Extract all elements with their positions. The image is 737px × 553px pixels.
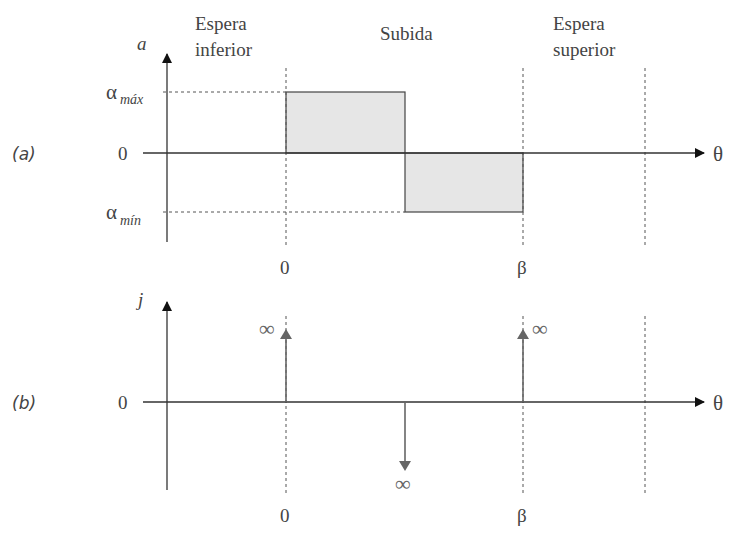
panel-a-tag: (a) (12, 144, 36, 164)
infinity-label-zero: ∞ (259, 316, 275, 341)
a-axis-label: a (137, 33, 147, 54)
panel-b-tag: (b) (12, 393, 36, 413)
phase-label-lower-dwell-line1: Espera (195, 13, 247, 34)
amax-subscript: máx (120, 92, 144, 107)
amax-label: α máx (106, 80, 144, 107)
cam-motion-diagram: Espera inferior Subida Espera superior (… (0, 0, 737, 553)
x-tick-beta-a: β (517, 257, 527, 278)
j-axis-label: j (135, 289, 143, 310)
negative-acceleration-block (405, 153, 523, 212)
amin-symbol: α (106, 200, 117, 224)
x-tick-zero-b: 0 (280, 505, 290, 526)
panel-a-acceleration: (a) a θ α máx 0 α mín 0 β (12, 33, 723, 278)
positive-acceleration-block (286, 92, 405, 153)
phase-label-upper-dwell-line1: Espera (553, 13, 605, 34)
infinity-label-beta: ∞ (532, 316, 548, 341)
x-tick-beta-b: β (517, 505, 527, 526)
phase-label-rise: Subida (380, 23, 433, 44)
phase-label-upper-dwell-line2: superior (553, 39, 616, 60)
panel-b-jerk: (b) ∞ ∞ ∞ j θ 0 0 β (12, 289, 723, 526)
amin-subscript: mín (120, 213, 141, 228)
phase-label-lower-dwell-line2: inferior (195, 39, 253, 60)
zero-label-b: 0 (118, 392, 128, 413)
x-tick-zero-a: 0 (280, 257, 290, 278)
zero-label-a: 0 (118, 143, 128, 164)
theta-axis-label-b: θ (713, 391, 723, 415)
phase-label-lower-dwell: Espera inferior (195, 13, 253, 60)
amax-symbol: α (106, 80, 117, 104)
infinity-label-midpoint: ∞ (395, 471, 411, 496)
phase-label-upper-dwell: Espera superior (553, 13, 616, 60)
theta-axis-label-a: θ (713, 142, 723, 166)
amin-label: α mín (106, 200, 141, 228)
